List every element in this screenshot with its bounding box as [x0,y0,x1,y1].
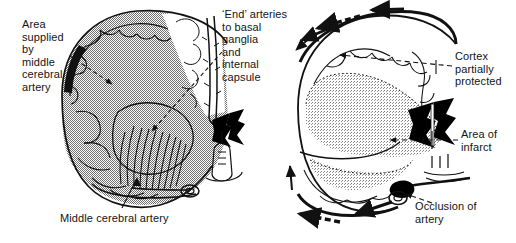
left-panel-coronal-section [62,11,245,208]
label-occlusion-of-artery: Occlusion of artery [415,200,477,225]
flow-arrow-left-up [290,166,292,190]
leader-cortex-protected [340,55,452,66]
label-middle-cerebral-artery: Middle cerebral artery [60,212,169,225]
collateral-artery-top [300,12,456,62]
brainstem-structure-right [424,154,466,182]
right-panel-coronal-section [290,9,470,222]
label-area-supplied-by-mca: Area supplied by middle cerebral artery [22,18,64,94]
flow-arrow-top-3 [296,34,314,50]
label-cortex-partially-protected: Cortex partially protected [455,50,502,88]
figure-container: Area supplied by middle cerebral artery … [0,0,516,243]
label-end-arteries: ‘End’ arteries to basal ganglia and inte… [222,8,287,84]
occlusion-blob [390,181,415,198]
flow-arrow-top-1 [372,9,404,10]
label-area-of-infarct: Area of infarct [461,128,497,153]
